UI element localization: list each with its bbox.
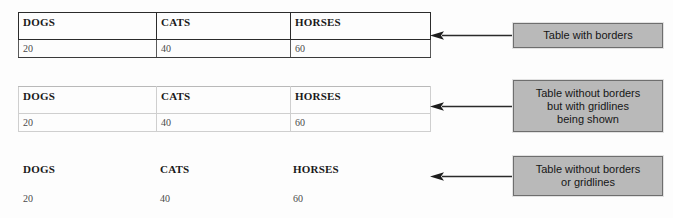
header-cell-horses: HORSES: [291, 87, 431, 114]
data-value-horses: 60: [291, 114, 430, 130]
table-row-data: 20 40 60: [19, 114, 431, 132]
header-label-cats: CATS: [155, 160, 288, 176]
callout-no-gridlines: Table without borders or gridlines: [513, 156, 663, 196]
header-label-cats: CATS: [157, 87, 290, 103]
data-cell-cats: 40: [157, 114, 291, 132]
data-cell-horses: 60: [291, 40, 431, 58]
header-cell-dogs: DOGS: [19, 87, 157, 114]
header-cell-dogs: DOGS: [18, 160, 155, 190]
data-cell-dogs: 20: [18, 190, 155, 210]
table-with-borders: DOGS CATS HORSES 20 40 60: [18, 12, 431, 58]
callout-label: Table with borders: [539, 29, 636, 42]
table-row-header: DOGS CATS HORSES: [19, 13, 431, 40]
header-label-dogs: DOGS: [19, 13, 156, 29]
header-label-cats: CATS: [157, 13, 290, 29]
header-cell-cats: CATS: [157, 87, 291, 114]
callout-gridlines: Table without borders but with gridlines…: [513, 80, 663, 132]
header-cell-cats: CATS: [155, 160, 288, 190]
table-row-header: DOGS CATS HORSES: [19, 87, 431, 114]
data-cell-horses: 60: [288, 190, 427, 210]
data-value-dogs: 20: [19, 40, 156, 56]
data-value-cats: 40: [157, 114, 290, 130]
header-label-horses: HORSES: [291, 13, 430, 29]
header-cell-cats: CATS: [157, 13, 291, 40]
data-cell-cats: 40: [155, 190, 288, 210]
header-label-dogs: DOGS: [19, 87, 156, 103]
header-cell-horses: HORSES: [288, 160, 427, 190]
data-value-horses: 60: [288, 190, 427, 206]
callout-label: Table without borders but with gridlines…: [532, 87, 645, 126]
table-with-gridlines: DOGS CATS HORSES 20 40 60: [18, 86, 431, 132]
header-label-horses: HORSES: [288, 160, 427, 176]
header-label-dogs: DOGS: [18, 160, 155, 176]
arrow-left-icon: [430, 30, 514, 41]
diagram-canvas: DOGS CATS HORSES 20 40 60 DOGS: [0, 0, 673, 218]
table-plain: DOGS CATS HORSES 20 40 60: [18, 160, 427, 210]
header-cell-dogs: DOGS: [19, 13, 157, 40]
arrow-left-icon: [430, 101, 514, 112]
data-value-cats: 40: [155, 190, 288, 206]
data-value-dogs: 20: [18, 190, 155, 206]
data-cell-horses: 60: [291, 114, 431, 132]
data-value-cats: 40: [157, 40, 290, 56]
data-cell-cats: 40: [157, 40, 291, 58]
arrow-left-icon: [430, 171, 514, 182]
callout-borders: Table with borders: [513, 23, 663, 48]
data-value-dogs: 20: [19, 114, 156, 130]
callout-label: Table without borders or gridlines: [532, 163, 645, 189]
data-cell-dogs: 20: [19, 40, 157, 58]
header-label-horses: HORSES: [291, 87, 430, 103]
table-row-data: 20 40 60: [19, 40, 431, 58]
table-row-header: DOGS CATS HORSES: [18, 160, 427, 190]
data-cell-dogs: 20: [19, 114, 157, 132]
header-cell-horses: HORSES: [291, 13, 431, 40]
table-row-data: 20 40 60: [18, 190, 427, 210]
data-value-horses: 60: [291, 40, 430, 56]
